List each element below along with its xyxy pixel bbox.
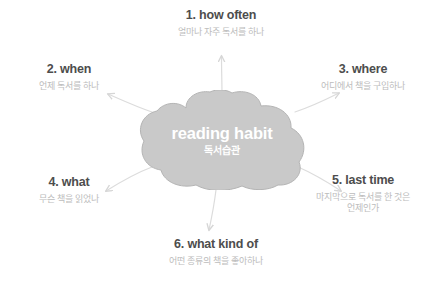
center-title: reading habit [172,124,273,142]
node-title: 3. where [298,62,428,78]
node-what[interactable]: 4. what 무슨 책을 읽었나 [8,175,130,205]
node-subtitle-line1: 마지막으로 독서를 한 것은 [316,192,410,202]
mind-map-diagram: reading habit 독서습관 1. how often 얼마나 자주 독… [0,0,435,286]
node-subtitle: 얼마나 자주 독서를 하나 [133,27,309,38]
node-subtitle: 언제 독서를 하나 [8,81,130,92]
node-title: 2. when [8,62,130,78]
node-how-often[interactable]: 1. how often 얼마나 자주 독서를 하나 [133,8,309,38]
node-subtitle-line1: 언제 독서를 하나 [39,81,99,91]
arrow-down-icon [209,190,216,230]
node-subtitle: 어떤 종류의 책을 좋아하나 [118,256,314,267]
center-cloud-text: reading habit 독서습관 [128,90,316,190]
node-subtitle-line2: 언제인가 [296,203,430,214]
node-subtitle-line1: 어디에서 책을 구입하나 [321,81,405,91]
node-subtitle-line1: 무슨 책을 읽었나 [39,194,99,204]
node-subtitle-line1: 얼마나 자주 독서를 하나 [178,27,264,37]
node-where[interactable]: 3. where 어디에서 책을 구입하나 [298,62,428,92]
node-last-time[interactable]: 5. last time 마지막으로 독서를 한 것은 언제인가 [296,173,430,214]
center-cloud: reading habit 독서습관 [128,90,316,190]
node-title: 4. what [8,175,130,191]
node-subtitle-line1: 어떤 종류의 책을 좋아하나 [169,256,263,266]
center-subtitle: 독서습관 [204,145,239,156]
node-subtitle: 어디에서 책을 구입하나 [298,81,428,92]
node-what-kind-of[interactable]: 6. what kind of 어떤 종류의 책을 좋아하나 [118,237,314,267]
node-title: 5. last time [296,173,430,189]
node-subtitle: 무슨 책을 읽었나 [8,194,130,205]
node-subtitle: 마지막으로 독서를 한 것은 언제인가 [296,192,430,215]
node-title: 1. how often [133,8,309,24]
node-title: 6. what kind of [118,237,314,253]
node-when[interactable]: 2. when 언제 독서를 하나 [8,62,130,92]
